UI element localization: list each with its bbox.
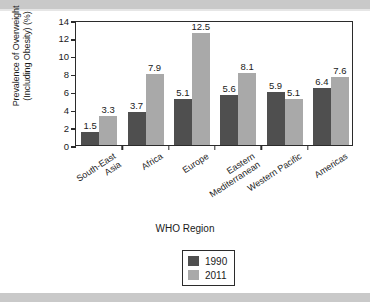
- bar-value-label: 5.1: [287, 87, 300, 98]
- bar-group: 3.77.9: [128, 22, 164, 145]
- bar[interactable]: 7.9: [146, 74, 164, 145]
- legend-item-2011[interactable]: 2011: [188, 269, 227, 281]
- bar-value-label: 5.1: [176, 87, 189, 98]
- y-axis-tick-label: 8: [47, 69, 69, 80]
- bar[interactable]: 7.6: [331, 77, 349, 145]
- x-axis-tick-mark: [261, 145, 262, 150]
- y-axis-tick-mark: [71, 75, 76, 76]
- y-axis-tick-label: 10: [47, 51, 69, 62]
- y-axis-tick-mark: [71, 128, 76, 129]
- chart-legend: 1990 2011: [182, 250, 235, 286]
- y-axis-tick-mark: [71, 57, 76, 58]
- bar[interactable]: 5.9: [267, 92, 285, 145]
- y-axis-tick-label: 14: [47, 16, 69, 27]
- page-band-bottom: [0, 293, 370, 302]
- y-axis-tick-label: 4: [47, 105, 69, 116]
- y-axis-tick-label: 6: [47, 87, 69, 98]
- x-axis-category-label: Americas: [268, 151, 349, 208]
- bar-group: 1.53.3: [81, 22, 117, 145]
- y-axis-tick-label: 12: [47, 33, 69, 44]
- y-axis-title: Prevalence of Overweight (Including Obes…: [11, 0, 33, 126]
- legend-label-2011: 2011: [205, 270, 227, 281]
- bar-group: 5.95.1: [267, 22, 303, 145]
- bar-value-label: 1.5: [84, 120, 97, 131]
- legend-item-1990[interactable]: 1990: [188, 255, 227, 267]
- bar[interactable]: 6.4: [313, 88, 331, 145]
- x-axis-tick-mark: [122, 145, 123, 150]
- bar-value-label: 5.6: [223, 83, 236, 94]
- chart-figure: Prevalence of Overweight (Including Obes…: [0, 11, 370, 293]
- bar-group: 5.68.1: [220, 22, 256, 145]
- x-axis-tick-mark: [307, 145, 308, 150]
- page-band-top: [0, 0, 370, 9]
- bar-value-label: 8.1: [241, 61, 254, 72]
- x-axis-tick-mark: [168, 145, 169, 150]
- bar[interactable]: 5.1: [174, 99, 192, 145]
- bar[interactable]: 12.5: [192, 33, 210, 145]
- legend-label-1990: 1990: [205, 256, 227, 267]
- y-axis-tick-mark: [71, 21, 76, 22]
- bar-value-label: 12.5: [192, 21, 211, 32]
- bar[interactable]: 1.5: [81, 132, 99, 145]
- bar[interactable]: 3.7: [128, 112, 146, 145]
- bar-group: 5.112.5: [174, 22, 210, 145]
- bar[interactable]: 8.1: [238, 73, 256, 145]
- y-axis-tick-mark: [71, 146, 76, 147]
- bar[interactable]: 5.6: [220, 95, 238, 145]
- plot-area: 024681012141.53.33.77.95.112.55.68.15.95…: [75, 21, 353, 146]
- legend-swatch-1990: [188, 256, 199, 266]
- legend-swatch-2011: [188, 270, 199, 280]
- bar-value-label: 5.9: [269, 80, 282, 91]
- bar-value-label: 3.7: [130, 100, 143, 111]
- bar-value-label: 3.3: [102, 104, 115, 115]
- y-axis-tick-mark: [71, 111, 76, 112]
- bar-group: 6.47.6: [313, 22, 349, 145]
- y-axis-tick-mark: [71, 93, 76, 94]
- y-axis-tick-label: 0: [47, 141, 69, 152]
- bar-value-label: 6.4: [315, 76, 328, 87]
- bar-value-label: 7.9: [148, 62, 161, 73]
- bar[interactable]: 5.1: [285, 99, 303, 145]
- bar[interactable]: 3.3: [99, 116, 117, 145]
- bar-value-label: 7.6: [333, 65, 346, 76]
- y-axis-tick-label: 2: [47, 123, 69, 134]
- x-axis-title: WHO Region: [0, 223, 370, 234]
- x-axis-tick-mark: [214, 145, 215, 150]
- y-axis-tick-mark: [71, 39, 76, 40]
